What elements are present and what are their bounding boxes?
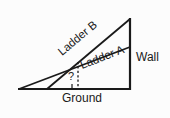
ladder-a-label: Ladder A	[78, 43, 126, 71]
unknown-height-label: ?	[68, 70, 74, 82]
right-angle-icon	[72, 84, 78, 89]
ladder-b-label: Ladder B	[56, 18, 100, 57]
wall-label: Wall	[136, 50, 159, 64]
diagram-canvas: Ladder B Ladder A ? Wall Ground	[0, 0, 170, 118]
ground-label: Ground	[62, 91, 102, 105]
crossed-ladders-figure: Ladder B Ladder A ? Wall Ground	[0, 0, 170, 118]
